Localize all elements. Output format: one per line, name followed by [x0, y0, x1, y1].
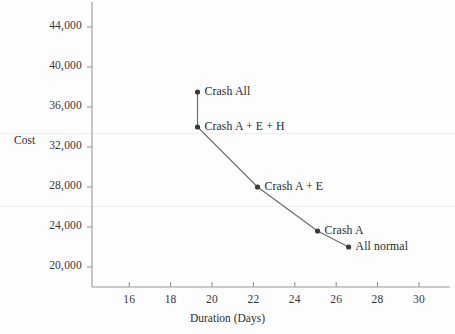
x-axis-tick-label: 24	[275, 293, 315, 305]
y-axis-tick-label: 28,000	[0, 179, 82, 191]
x-axis-tick-label: 28	[358, 293, 398, 305]
point-label: All normal	[356, 239, 408, 254]
point-label: Crash A	[325, 223, 364, 238]
x-axis-tick-label: 30	[399, 293, 439, 305]
data-point-marker	[195, 89, 200, 94]
y-axis-tick-label: 24,000	[0, 219, 82, 231]
y-axis-tick-label: 40,000	[0, 59, 82, 71]
x-axis-tick-label: 26	[316, 293, 356, 305]
x-axis-title: Duration (Days)	[0, 312, 455, 324]
y-axis-tick-label: 44,000	[0, 19, 82, 31]
x-axis-tick-label: 16	[109, 293, 149, 305]
point-label: Crash A + E	[265, 179, 324, 194]
plot-canvas	[0, 0, 455, 334]
data-point-marker	[195, 124, 200, 129]
x-axis-tick-label: 22	[233, 293, 273, 305]
chart-figure: 20,00024,00028,00032,00036,00040,00044,0…	[0, 0, 455, 334]
y-axis-title: Cost	[14, 134, 35, 146]
y-axis-tick-label: 20,000	[0, 259, 82, 271]
data-point-marker	[255, 184, 260, 189]
x-axis-tick-label: 20	[192, 293, 232, 305]
y-axis-tick-label: 32,000	[0, 139, 82, 151]
data-point-marker	[315, 228, 320, 233]
point-label: Crash A + E + H	[205, 119, 285, 134]
y-axis-tick-label: 36,000	[0, 99, 82, 111]
point-label: Crash All	[205, 84, 251, 99]
x-axis-tick-label: 18	[151, 293, 191, 305]
data-point-marker	[346, 244, 351, 249]
